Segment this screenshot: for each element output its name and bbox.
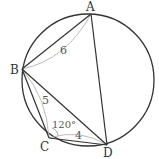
- circumcircle: [22, 14, 154, 146]
- point-label-c: C: [40, 140, 49, 154]
- point-label-a: A: [85, 0, 95, 14]
- geometry-diagram: A B C D 6 5 4 120°: [0, 0, 159, 159]
- segment-da: [91, 14, 107, 145]
- angle-label-c: 120°: [52, 119, 76, 130]
- length-label-bc: 5: [42, 94, 49, 107]
- length-label-cd: 4: [75, 129, 82, 142]
- point-label-d: D: [103, 146, 113, 159]
- point-label-b: B: [10, 63, 19, 77]
- length-label-ab: 6: [60, 44, 67, 57]
- segment-bd: [22, 69, 107, 145]
